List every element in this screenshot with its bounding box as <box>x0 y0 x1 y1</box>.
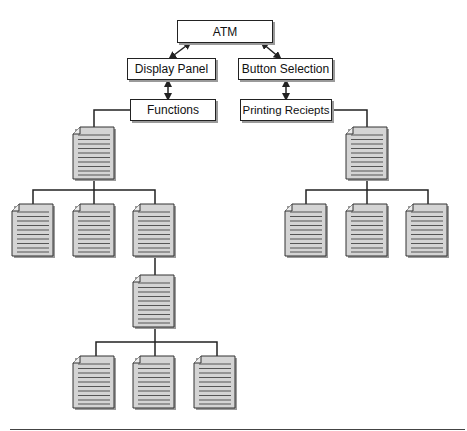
document-icon-left-l3-2 <box>133 356 176 410</box>
arrow-atm-button-selection <box>262 43 280 58</box>
document-icon-left-l1-1 <box>12 204 55 258</box>
document-icon-left-l3-3 <box>194 356 237 410</box>
node-display-panel-label: Display Panel <box>135 62 208 76</box>
line-printing-to-doc <box>332 110 367 127</box>
node-printing-receipts-label: Printing Reciepts <box>243 104 330 116</box>
node-functions: Functions <box>130 99 216 121</box>
document-icon-right-l1-2 <box>346 204 389 258</box>
node-button-selection-label: Button Selection <box>242 62 329 76</box>
document-icon-left-l1-2 <box>73 204 116 258</box>
bottom-rule-divider <box>10 429 465 430</box>
document-icon-right-root <box>346 127 389 181</box>
document-icon-left-root <box>73 127 116 181</box>
node-display-panel: Display Panel <box>127 58 216 80</box>
node-atm: ATM <box>177 20 273 43</box>
document-icon-right-l1-3 <box>406 204 449 258</box>
node-button-selection: Button Selection <box>238 58 333 80</box>
node-printing-receipts: Printing Reciepts <box>240 99 332 121</box>
document-icon-right-l1-1 <box>285 204 328 258</box>
connector-lines <box>33 43 428 356</box>
atm-diagram-canvas <box>0 0 467 431</box>
node-atm-label: ATM <box>213 25 237 39</box>
arrow-atm-display-panel <box>170 43 190 58</box>
line-functions-to-doc <box>94 110 130 127</box>
line-left-level3-bus <box>96 342 217 356</box>
document-icon-left-l3-1 <box>73 356 116 410</box>
document-icon-left-l2 <box>133 275 176 329</box>
document-icon-left-l1-3 <box>133 204 176 258</box>
node-functions-label: Functions <box>147 103 199 117</box>
